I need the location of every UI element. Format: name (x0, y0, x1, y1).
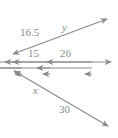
label-upper-right-segment: y (62, 22, 67, 33)
label-lower-right-segment: 30 (59, 104, 70, 115)
lower-transversal-line (14, 71, 108, 126)
geometry-diagram: 16.5 y 15 26 x 30 (0, 0, 118, 138)
diagram-canvas (0, 0, 118, 138)
label-middle-right-segment: 26 (60, 48, 71, 59)
label-middle-left-segment: 15 (28, 48, 39, 59)
label-upper-left-segment: 16.5 (20, 27, 39, 38)
label-lower-left-segment: x (33, 85, 38, 96)
